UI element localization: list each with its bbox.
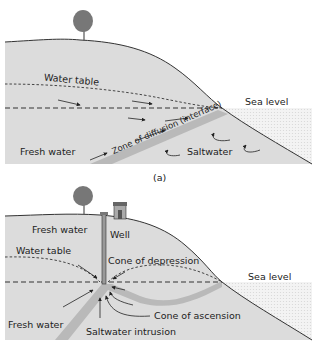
well-house-icon (113, 202, 127, 219)
saltwater-intrusion-diagram: Water table Sea level Fresh water Zone o… (0, 0, 319, 347)
panel-a (5, 10, 312, 164)
label-saltwater-intrusion: Saltwater intrusion (86, 327, 176, 337)
label-fresh-water-bottom: Fresh water (8, 320, 63, 330)
label-fresh-water-top: Fresh water (32, 225, 87, 235)
label-cone-of-depression: Cone of depression (108, 256, 199, 266)
label-fresh-water-a: Fresh water (20, 147, 75, 157)
label-sea-level-a: Sea level (245, 97, 288, 107)
caption-a: (a) (153, 173, 166, 183)
label-well: Well (110, 230, 130, 240)
label-sea-level-b: Sea level (248, 272, 291, 282)
tree-icon-b (73, 186, 93, 215)
label-saltwater: Saltwater (187, 147, 232, 157)
tree-icon (73, 10, 93, 41)
label-water-table-b: Water table (16, 246, 71, 256)
label-cone-of-ascension: Cone of ascension (154, 311, 241, 321)
well-pipe (102, 214, 106, 284)
